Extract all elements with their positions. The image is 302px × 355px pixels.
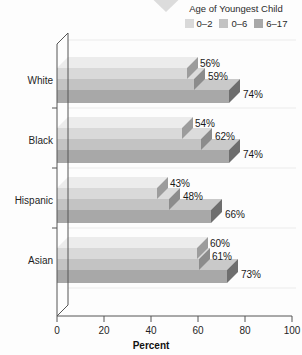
chart-svg: [0, 0, 302, 355]
value-label-white-0-6: 59%: [208, 71, 228, 82]
value-label-hispanic-0-2: 43%: [170, 178, 190, 189]
x-tick-label-100: 100: [284, 325, 301, 336]
value-label-hispanic-0-6: 48%: [183, 191, 203, 202]
bar-black-0-2[interactable]: [57, 117, 193, 139]
chart-container: Age of Youngest Child 0–2 0–6 6–17: [0, 0, 302, 355]
value-label-asian-0-2: 60%: [210, 238, 230, 249]
x-tick-label-60: 60: [192, 325, 203, 336]
category-label-hispanic: Hispanic: [15, 195, 53, 206]
plot-area: [0, 0, 302, 355]
x-tick-label-20: 20: [98, 325, 109, 336]
bar-white-0-2[interactable]: [57, 57, 198, 79]
x-tick-label-0: 0: [54, 325, 60, 336]
bar-hispanic-0-2[interactable]: [57, 177, 168, 199]
x-tick-label-40: 40: [145, 325, 156, 336]
value-label-white-0-2: 56%: [200, 58, 220, 69]
value-label-asian-0-6: 61%: [212, 251, 232, 262]
value-label-black-0-6: 62%: [215, 131, 235, 142]
x-tick-label-80: 80: [239, 325, 250, 336]
x-axis-title: Percent: [0, 340, 302, 351]
value-label-hispanic-6-17: 66%: [225, 209, 245, 220]
category-label-black: Black: [29, 135, 53, 146]
bar-asian-0-2[interactable]: [57, 237, 208, 259]
value-label-black-0-2: 54%: [195, 118, 215, 129]
axis-depth-top: [57, 33, 68, 44]
value-label-white-6-17: 74%: [243, 89, 263, 100]
axis-depth-bottom: [57, 305, 68, 316]
value-label-black-6-17: 74%: [243, 149, 263, 160]
value-label-asian-6-17: 73%: [241, 269, 261, 280]
category-label-asian: Asian: [28, 255, 53, 266]
category-label-white: White: [27, 75, 53, 86]
